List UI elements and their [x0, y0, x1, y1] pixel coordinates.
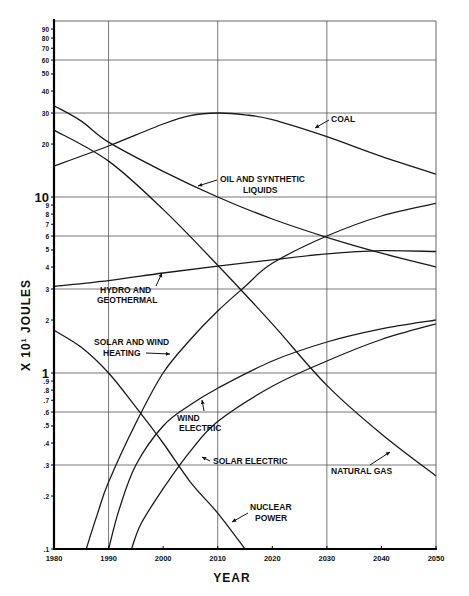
- x-tick-label: 2050: [428, 554, 445, 563]
- y-tick-label: 8: [45, 211, 49, 218]
- chart-canvas: .1.2.3.4.5.6.7.8.91234567891020304050607…: [0, 0, 469, 596]
- y-tick-label: .8: [44, 387, 50, 394]
- y-axis-title: X 10¹ JOULES: [19, 279, 33, 371]
- y-tick-label: 20: [42, 141, 50, 148]
- y-tick-label: 40: [42, 88, 50, 95]
- x-tick-label: 2000: [155, 554, 172, 563]
- y-tick-label: 5: [45, 246, 49, 253]
- y-tick-label: 60: [42, 57, 50, 64]
- y-tick-label: .4: [44, 440, 50, 447]
- y-tick-label: 7: [45, 221, 49, 228]
- label-windelec-line2: ELECTRIC: [179, 423, 222, 433]
- series-line-hydro-and-geothermal: [54, 251, 436, 287]
- label-hydro: HYDRO AND: [100, 285, 151, 295]
- energy-projection-chart: .1.2.3.4.5.6.7.8.91234567891020304050607…: [0, 0, 469, 596]
- y-tick-label: 1: [42, 366, 49, 381]
- arrowhead-icon: [166, 352, 170, 356]
- x-tick-label: 2040: [373, 554, 390, 563]
- label-oil-line2: LIQUIDS: [243, 185, 278, 195]
- y-tick-label: 80: [42, 35, 50, 42]
- label-coal: COAL: [331, 114, 355, 124]
- y-tick-label: .6: [44, 409, 50, 416]
- series-line-nuclear-power: [54, 330, 245, 549]
- x-tick-label: 2010: [209, 554, 226, 563]
- y-tick-label: 2: [45, 317, 49, 324]
- label-nuclear: NUCLEAR: [250, 502, 292, 512]
- data-series: [54, 106, 436, 549]
- y-tick-label: 50: [42, 70, 50, 77]
- y-tick-label: .7: [44, 397, 50, 404]
- label-windelec: WIND: [177, 413, 200, 423]
- y-tick-label: .2: [44, 493, 50, 500]
- series-labels: COALOIL AND SYNTHETICLIQUIDSHYDRO ANDGEO…: [94, 114, 392, 523]
- y-axis-ticks: .1.2.3.4.5.6.7.8.91234567891020304050607…: [35, 26, 54, 553]
- y-tick-label: .1: [44, 546, 50, 553]
- series-line-solar-and-wind-heating: [86, 203, 436, 549]
- y-tick-label: 10: [35, 190, 49, 205]
- y-tick-label: 3: [45, 286, 49, 293]
- label-solarwind-line2: HEATING: [103, 348, 141, 358]
- y-tick-label: .5: [44, 422, 50, 429]
- arrowhead-icon: [198, 183, 203, 187]
- label-solarelec: SOLAR ELECTRIC: [213, 456, 288, 466]
- x-tick-label: 1990: [100, 554, 117, 563]
- label-nuclear-line2: POWER: [255, 513, 287, 523]
- x-tick-label: 2020: [264, 554, 281, 563]
- y-tick-label: 70: [42, 45, 50, 52]
- y-tick-label: 4: [45, 264, 49, 271]
- label-natgas: NATURAL GAS: [331, 466, 392, 476]
- label-solarwind: SOLAR AND WIND: [94, 337, 169, 347]
- x-tick-label: 2030: [319, 554, 336, 563]
- x-tick-label: 1980: [46, 554, 63, 563]
- y-tick-label: 6: [45, 233, 49, 240]
- label-hydro-line2: GEOTHERMAL: [97, 295, 157, 305]
- arrowhead-icon: [201, 400, 205, 404]
- y-tick-label: 30: [42, 110, 50, 117]
- label-oil: OIL AND SYNTHETIC: [220, 174, 305, 184]
- x-axis-title: YEAR: [213, 571, 250, 585]
- y-tick-label: 90: [42, 26, 50, 33]
- y-tick-label: .3: [44, 462, 50, 469]
